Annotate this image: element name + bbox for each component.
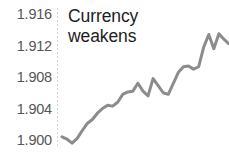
price-series-line — [62, 34, 229, 143]
plot-area — [0, 0, 229, 153]
currency-line-chart: 1.916 1.912 1.908 1.904 1.900 Currency w… — [0, 0, 229, 153]
